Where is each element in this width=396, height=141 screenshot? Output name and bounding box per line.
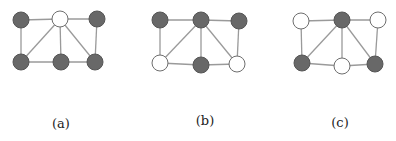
node-a-tr-dark xyxy=(89,11,105,27)
node-c-bm-light xyxy=(334,58,350,74)
panel-a-nodes xyxy=(13,11,105,70)
node-b-bm-dark xyxy=(193,57,209,73)
node-b-tl-dark xyxy=(152,12,168,28)
node-c-tl-light xyxy=(293,13,309,29)
node-c-tr-light xyxy=(370,12,386,28)
node-c-bl-dark xyxy=(294,55,310,71)
panel-c: (c) xyxy=(293,12,386,130)
edge-tm-bl xyxy=(302,20,342,63)
node-a-tl-dark xyxy=(13,12,29,28)
graph-figure: (a) (b) (c) xyxy=(0,0,396,141)
panel-b-label: (b) xyxy=(196,113,214,128)
panel-b-nodes xyxy=(152,12,247,73)
node-b-bl-light xyxy=(152,55,168,71)
node-c-br-dark xyxy=(367,56,383,72)
panel-a: (a) xyxy=(13,11,105,131)
node-a-bm-dark xyxy=(53,54,69,70)
panel-c-label: (c) xyxy=(331,115,348,130)
node-b-tm-dark xyxy=(193,12,209,28)
node-a-bl-dark xyxy=(13,54,29,70)
node-a-br-dark xyxy=(87,54,103,70)
edge-tm-bl xyxy=(160,20,201,63)
node-a-tm-light xyxy=(52,11,68,27)
edge-tm-br xyxy=(201,20,237,64)
panel-a-label: (a) xyxy=(52,116,70,131)
node-b-br-light xyxy=(229,56,245,72)
panel-c-nodes xyxy=(293,12,386,74)
node-b-tr-dark xyxy=(231,13,247,29)
node-c-tm-dark xyxy=(334,12,350,28)
panel-b: (b) xyxy=(152,12,247,128)
